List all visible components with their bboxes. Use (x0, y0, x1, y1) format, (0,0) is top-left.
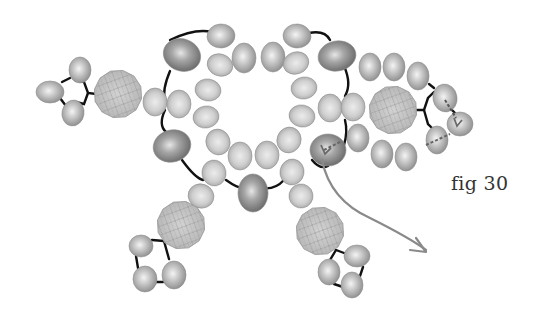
large-bead (150, 126, 195, 167)
thread (336, 250, 344, 253)
large-bead (316, 38, 359, 74)
ring-bead (204, 50, 236, 80)
ring-bead (287, 103, 316, 129)
seed-bead (282, 23, 312, 49)
ring-bead (228, 142, 252, 170)
thread (62, 78, 70, 82)
picot-bead (129, 235, 153, 257)
seed-bead (371, 140, 393, 168)
picot-bead (133, 266, 157, 292)
seed-bead (167, 90, 191, 118)
seed-beads (36, 23, 473, 298)
beadwork-diagram (0, 0, 535, 314)
faceted-crystal-beads (95, 71, 417, 255)
seed-bead (359, 53, 381, 81)
picot-bead (318, 259, 340, 285)
crystal-bead (370, 87, 417, 134)
large-bead (238, 174, 268, 212)
picot-bead (36, 81, 64, 103)
ring-bead (191, 104, 220, 130)
seed-bead (261, 42, 285, 72)
seed-bead (143, 88, 167, 116)
picot-bead (344, 245, 370, 267)
ring-bead (255, 141, 279, 169)
seed-bead (395, 143, 417, 171)
seed-bead (347, 124, 369, 152)
seed-bead (200, 158, 228, 188)
ring-bead (193, 77, 222, 103)
figure-caption: fig 30 (451, 172, 508, 194)
thread (136, 256, 138, 268)
thread (417, 92, 434, 110)
large-bead (159, 33, 206, 76)
thread (309, 32, 330, 40)
ring-bead (289, 75, 318, 101)
crystal-bead (297, 208, 344, 255)
thread (360, 267, 363, 276)
seed-bead (407, 62, 429, 90)
seed-bead (383, 53, 405, 81)
thread (344, 120, 346, 145)
picot-bead (447, 112, 473, 136)
seed-bead (318, 94, 342, 122)
picot-bead (341, 272, 363, 298)
picot-bead (162, 261, 186, 289)
thread (429, 84, 434, 88)
crystal-bead (95, 71, 142, 118)
seed-bead (206, 23, 236, 49)
seed-bead (232, 43, 256, 73)
seed-bead (287, 182, 315, 210)
picot-bead (431, 82, 459, 114)
thread (182, 160, 203, 180)
thread (344, 66, 348, 96)
thread (152, 240, 164, 241)
seed-bead (341, 93, 365, 121)
picot-bead (69, 57, 91, 83)
crystal-bead (158, 202, 205, 249)
